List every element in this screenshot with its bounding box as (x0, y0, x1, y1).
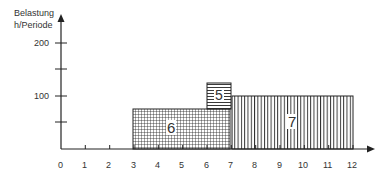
block-6-label: 6 (166, 120, 176, 135)
x-tick-label: 11 (323, 160, 332, 170)
x-tick-label: 0 (58, 160, 63, 170)
y-axis-label-line2: h/Periode (14, 20, 53, 30)
y-tick-label-200: 200 (34, 38, 49, 48)
x-axis-arrow-icon (367, 146, 375, 153)
y-tick-label-100: 100 (34, 91, 49, 101)
x-tick-label: 3 (131, 160, 136, 170)
x-tick-label: 4 (155, 160, 160, 170)
x-tick-label: 2 (106, 160, 111, 170)
capacity-load-diagram (0, 0, 382, 182)
x-tick-label: 5 (179, 160, 184, 170)
x-tick-label: 12 (347, 160, 357, 170)
x-tick-label: 10 (298, 160, 308, 170)
x-tick-label: 7 (228, 160, 233, 170)
block-6 (133, 109, 230, 149)
x-tick-label: 9 (277, 160, 282, 170)
block-7-label: 7 (287, 114, 297, 129)
y-axis-arrow-icon (58, 14, 65, 22)
x-tick-label: 6 (204, 160, 209, 170)
y-axis-label-line1: Belastung (14, 8, 54, 18)
x-tick-label: 1 (82, 160, 87, 170)
block-5-label: 5 (214, 88, 224, 102)
x-tick-label: 8 (252, 160, 257, 170)
